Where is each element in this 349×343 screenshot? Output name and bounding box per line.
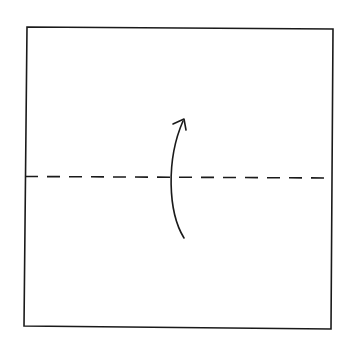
background — [0, 0, 349, 343]
origami-diagram — [0, 0, 349, 343]
